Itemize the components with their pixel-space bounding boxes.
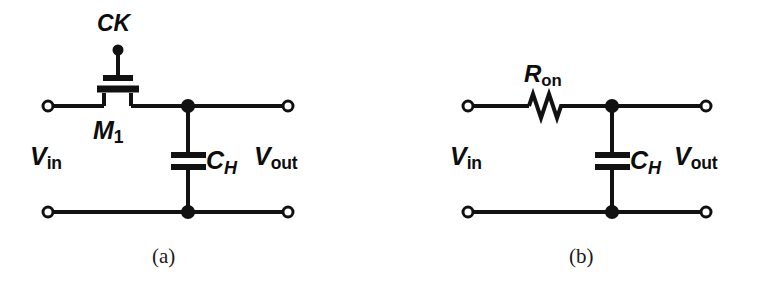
- panel-b-ground-junction-dot: [605, 205, 619, 219]
- panel-a-top-wire: [53, 93, 283, 106]
- panel-b-input-terminal[interactable]: [463, 101, 473, 111]
- panel-a-caption: (a): [152, 246, 175, 267]
- panel-a-device-label: M1: [93, 118, 123, 143]
- panel-a-output-label: Vout: [254, 144, 297, 169]
- panel-b-resistor-symbol: [529, 94, 563, 118]
- panel-b-capacitor-branch: [595, 106, 630, 212]
- panel-b-caption: (b): [569, 246, 594, 267]
- panel-a-clock-label: CK: [97, 12, 130, 35]
- panel-a-output-junction-dot: [181, 99, 195, 113]
- panel-b-input-ground-terminal[interactable]: [463, 207, 473, 217]
- panel-b-input-label: Vin: [450, 144, 482, 169]
- panel-b-output-ground-terminal[interactable]: [701, 207, 711, 217]
- panel-a-nmos-transistor: [97, 52, 139, 89]
- panel-a-ck-node-dot: [113, 45, 124, 56]
- panel-b-output-junction-dot: [605, 99, 619, 113]
- panel-b-output-label: Vout: [674, 144, 717, 169]
- panel-a-output-ground-terminal[interactable]: [283, 207, 293, 217]
- panel-a-output-terminal[interactable]: [283, 101, 293, 111]
- panel-b-resistor-label: Ron: [524, 62, 562, 86]
- panel-a-input-ground-terminal[interactable]: [43, 207, 53, 217]
- panel-a-ground-junction-dot: [181, 205, 195, 219]
- panel-b-capacitor-label: CH: [630, 148, 661, 173]
- panel-a-capacitor-branch: [171, 106, 206, 212]
- panel-a-capacitor-label: CH: [206, 148, 237, 173]
- panel-a-input-label: Vin: [30, 144, 62, 169]
- panel-b-output-terminal[interactable]: [701, 101, 711, 111]
- figure-canvas: CK M1 CH Vin Vout (a) Ron CH Vin Vout (b…: [0, 0, 768, 290]
- panel-a-input-terminal[interactable]: [43, 101, 53, 111]
